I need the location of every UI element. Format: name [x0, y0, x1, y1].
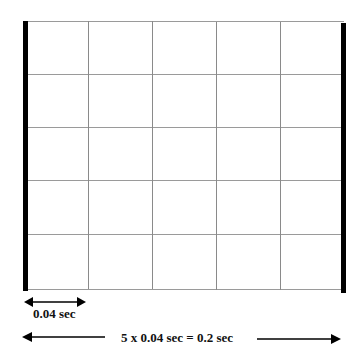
total-interval-label: 5 x 0.04 sec = 0.2 sec — [121, 330, 233, 346]
total-right-arrow-icon — [257, 334, 341, 344]
total-left-arrow-icon — [22, 332, 105, 342]
small-interval-label: 0.04 sec — [33, 306, 76, 322]
